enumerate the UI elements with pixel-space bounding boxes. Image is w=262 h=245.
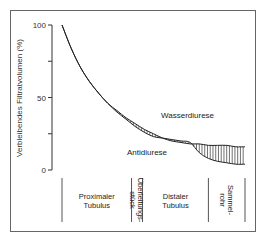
series-line-wasserdiurese — [62, 25, 245, 147]
y-ticks: 050100 — [33, 21, 52, 175]
annotation-antidiurese: Antidiurese — [127, 148, 168, 157]
series-line-antidiurese — [62, 25, 245, 164]
segment-label-sammelrohr: Sammel-rohr — [218, 185, 235, 216]
segment-label-distal: DistalerTubulus — [162, 192, 189, 210]
segment-label-proximal: ProximalerTubulus — [79, 192, 115, 210]
annotation-wasserdiurese: Wasserdiurese — [161, 111, 215, 120]
chart: 050100 Verbleibendes Filtratvolumen (%) … — [0, 0, 262, 245]
segment-label-ueberleitung: Überleitungs-stück — [128, 178, 145, 223]
y-tick-label: 100 — [33, 21, 47, 30]
segments: ProximalerTubulusÜberleitungs-stückDista… — [62, 178, 245, 223]
y-axis-label: Verbleibendes Filtratvolumen (%) — [15, 39, 24, 157]
y-tick-label: 0 — [42, 166, 47, 175]
y-tick-label: 50 — [37, 94, 46, 103]
